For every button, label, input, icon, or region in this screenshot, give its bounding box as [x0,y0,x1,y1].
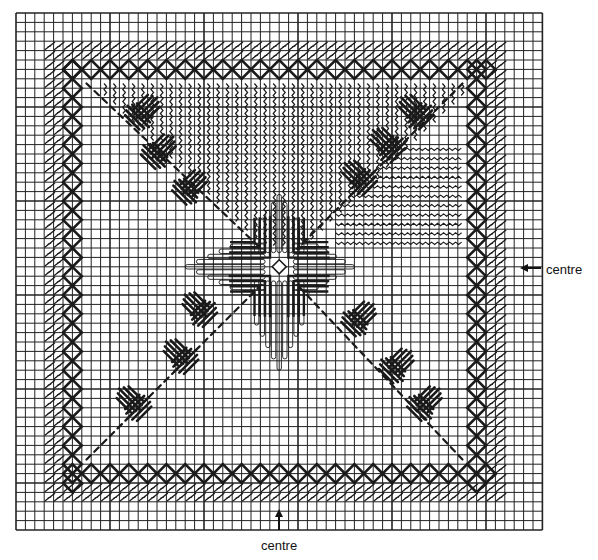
stitch-pattern [45,42,506,501]
up-arrow-icon [275,509,283,530]
centre-label-bottom: centre [261,538,297,553]
stitch-chart [0,0,598,560]
centre-label-right: centre [546,262,582,277]
